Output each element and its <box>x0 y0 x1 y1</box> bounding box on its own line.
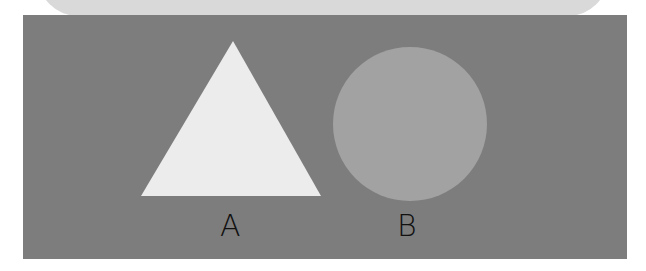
shapes-layer <box>0 0 646 271</box>
label-b: B <box>397 211 417 241</box>
label-a: A <box>220 211 241 241</box>
triangle-shape-a <box>141 41 321 196</box>
circle-shape-b <box>333 47 487 201</box>
